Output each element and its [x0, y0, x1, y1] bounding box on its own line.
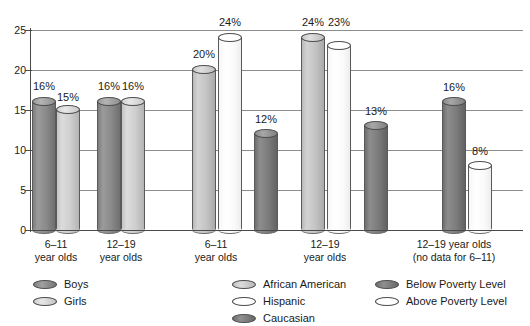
- legend-swatch-icon: [33, 297, 57, 306]
- bar-body: [327, 46, 351, 230]
- bar-body: [56, 110, 80, 230]
- bar-boys-12-19[interactable]: 16%: [97, 102, 121, 230]
- bar-top-cap: [218, 33, 242, 42]
- legend-sex: Boys Girls: [33, 276, 88, 310]
- x-category-label-race-12-19: 12–19 year olds: [287, 238, 363, 264]
- legend-swatch-icon: [375, 280, 399, 289]
- gridline-20: [32, 70, 523, 71]
- bar-body: [254, 134, 278, 230]
- y-tick-label-5: 5: [4, 185, 26, 196]
- legend-label: Below Poverty Level: [406, 279, 506, 290]
- bar-top-cap: [442, 97, 466, 106]
- y-tick-mark-10: [25, 150, 32, 151]
- bar-value-label: 24%: [219, 17, 241, 28]
- bar-top-cap: [364, 121, 388, 130]
- bar-value-label: 13%: [365, 106, 387, 117]
- bar-top-cap: [301, 33, 325, 42]
- bar-value-label: 15%: [57, 92, 79, 103]
- bar-top-cap: [121, 97, 145, 106]
- legend-label: Boys: [64, 279, 88, 290]
- legend-item-african-american[interactable]: African American: [232, 276, 346, 293]
- bar-body: [192, 70, 216, 230]
- x-category-label-sex-12-19: 12–19 year olds: [83, 238, 159, 264]
- bar-african-american-12-19[interactable]: 24%: [301, 38, 325, 230]
- bar-value-label: 16%: [122, 81, 144, 92]
- bar-below-poverty-12-19[interactable]: 16%: [442, 102, 466, 230]
- bar-caucasian-12-19[interactable]: 13%: [364, 126, 388, 230]
- bar-hispanic-6-11[interactable]: 24%: [218, 38, 242, 230]
- bar-top-cap: [468, 161, 492, 170]
- y-tick-mark-15: [25, 110, 32, 111]
- bar-caucasian-6-11[interactable]: 12%: [254, 134, 278, 230]
- legend-label: Girls: [64, 296, 87, 307]
- bar-value-label: 16%: [98, 81, 120, 92]
- legend-label: African American: [263, 279, 346, 290]
- legend-label: Above Poverty Level: [406, 296, 507, 307]
- legend-label: Hispanic: [263, 296, 305, 307]
- y-axis-line: [30, 28, 31, 232]
- legend-swatch-icon: [33, 280, 57, 289]
- bar-top-cap: [97, 97, 121, 106]
- bar-body: [468, 166, 492, 230]
- legend-item-above-poverty[interactable]: Above Poverty Level: [375, 293, 507, 310]
- y-tick-label-15: 15: [4, 105, 26, 116]
- bar-value-label: 23%: [328, 17, 350, 28]
- bar-girls-6-11[interactable]: 15%: [56, 110, 80, 230]
- legend-item-below-poverty[interactable]: Below Poverty Level: [375, 276, 507, 293]
- bar-chart: 25 20 15 10 5 0 16% 15%: [0, 0, 530, 326]
- gridline-25: [32, 30, 523, 31]
- legend-label: Caucasian: [263, 313, 315, 324]
- x-axis-line: [26, 230, 523, 231]
- plot-area: 16% 15% 16% 16% 20%: [32, 30, 523, 230]
- legend-item-caucasian[interactable]: Caucasian: [232, 310, 346, 326]
- legend-swatch-icon: [232, 280, 256, 289]
- bar-body: [32, 102, 56, 230]
- y-tick-label-20: 20: [4, 65, 26, 76]
- bar-value-label: 8%: [472, 146, 488, 157]
- y-tick-label-10: 10: [4, 145, 26, 156]
- bar-body: [121, 102, 145, 230]
- bar-body: [218, 38, 242, 230]
- x-category-label-race-6-11: 6–11 year olds: [178, 238, 254, 264]
- y-tick-mark-5: [25, 190, 32, 191]
- y-tick-label-0: 0: [4, 225, 26, 236]
- x-category-label-poverty-12-19: 12–19 year olds (no data for 6–11): [384, 238, 524, 264]
- legend-race: African American Hispanic Caucasian: [232, 276, 346, 326]
- bar-girls-12-19[interactable]: 16%: [121, 102, 145, 230]
- y-tick-mark-25: [25, 30, 32, 31]
- bar-body: [442, 102, 466, 230]
- bar-body: [301, 38, 325, 230]
- bar-body: [97, 102, 121, 230]
- bar-top-cap: [56, 105, 80, 114]
- bar-top-cap: [327, 41, 351, 50]
- legend-poverty: Below Poverty Level Above Poverty Level: [375, 276, 507, 310]
- bar-top-cap: [254, 129, 278, 138]
- legend-swatch-icon: [232, 297, 256, 306]
- bar-african-american-6-11[interactable]: 20%: [192, 70, 216, 230]
- legend-item-girls[interactable]: Girls: [33, 293, 88, 310]
- bar-body: [364, 126, 388, 230]
- legend-item-boys[interactable]: Boys: [33, 276, 88, 293]
- y-tick-label-25: 25: [4, 25, 26, 36]
- legend-swatch-icon: [232, 314, 256, 323]
- y-tick-mark-20: [25, 70, 32, 71]
- bar-top-cap: [192, 65, 216, 74]
- bar-value-label: 16%: [33, 81, 55, 92]
- bar-boys-6-11[interactable]: 16%: [32, 102, 56, 230]
- bar-above-poverty-12-19[interactable]: 8%: [468, 166, 492, 230]
- bar-hispanic-12-19[interactable]: 23%: [327, 46, 351, 230]
- bar-value-label: 12%: [255, 114, 277, 125]
- bar-value-label: 20%: [193, 49, 215, 60]
- bar-value-label: 16%: [443, 82, 465, 93]
- bar-value-label: 24%: [302, 17, 324, 28]
- legend-item-hispanic[interactable]: Hispanic: [232, 293, 346, 310]
- bar-top-cap: [32, 97, 56, 106]
- legend-swatch-icon: [375, 297, 399, 306]
